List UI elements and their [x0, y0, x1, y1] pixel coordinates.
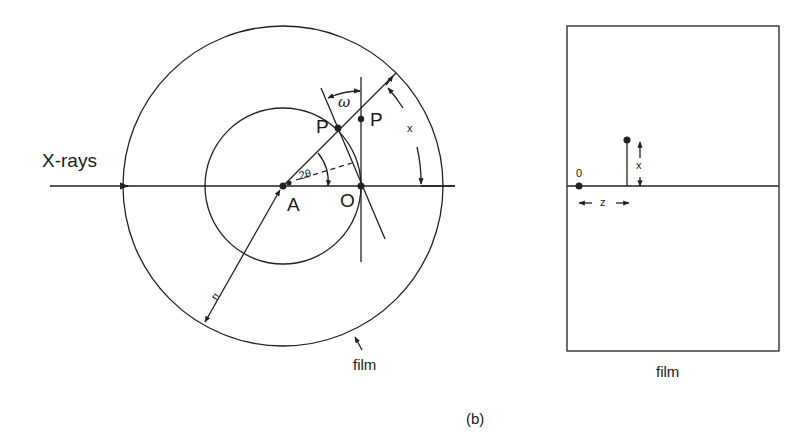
- distance-z-label: z: [600, 197, 606, 208]
- point-A-dot: [280, 183, 287, 190]
- point-P-proj-label: P: [370, 110, 383, 129]
- point-P-sphere-dot: [335, 125, 342, 132]
- two-theta-arc: [318, 153, 328, 186]
- radius-rf-line: [205, 190, 280, 322]
- film-circle-label: film: [353, 357, 376, 372]
- omega-label: ω: [338, 95, 350, 110]
- x-arc-lower: [417, 147, 421, 184]
- point-P-sphere-label: P: [316, 117, 329, 136]
- flat-film-label: film: [656, 364, 679, 379]
- point-A2-dot: [287, 181, 292, 186]
- flat-film-rect: [567, 26, 779, 351]
- point-O-dot: [358, 183, 365, 190]
- origin-dot: [576, 183, 583, 190]
- origin-label: 0: [576, 168, 582, 179]
- point-O-label: O: [340, 191, 355, 210]
- xrays-label: X-rays: [42, 151, 97, 170]
- film-pointer-arrow: [355, 337, 362, 350]
- height-x-label: x: [636, 160, 642, 171]
- figure-caption: (b): [466, 411, 484, 426]
- film-hit-tick: [386, 76, 393, 85]
- reflection-spot-dot: [624, 137, 631, 144]
- arc-x-label: x: [407, 123, 413, 134]
- point-A-label: A: [287, 195, 300, 214]
- diagram-canvas: [0, 0, 803, 444]
- x-arc: [388, 88, 403, 108]
- point-P-proj-dot: [358, 116, 364, 122]
